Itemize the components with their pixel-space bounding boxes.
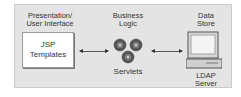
- data-heading: Data Store: [188, 12, 224, 28]
- servlets-label: Servlets: [108, 68, 148, 76]
- presentation-heading: Presentation/ User Interface: [22, 12, 78, 28]
- presentation-heading-line2: User Interface: [22, 20, 78, 28]
- gears-icon: [112, 37, 148, 67]
- business-heading-line2: Logic: [108, 20, 148, 28]
- arrow-jsp-servlets: [80, 51, 108, 52]
- ldap-label-line2: Server: [186, 80, 226, 88]
- ldap-server-label: LDAP Server: [186, 72, 226, 88]
- computer-icon: [186, 31, 222, 71]
- jsp-label-line1: JSP: [41, 40, 56, 50]
- jsp-label-line2: Templates: [30, 50, 66, 60]
- business-heading: Business Logic: [108, 12, 148, 28]
- arrow-servlets-ldap: [152, 51, 182, 52]
- data-heading-line2: Store: [188, 20, 224, 28]
- jsp-templates-box: JSP Templates: [22, 32, 74, 68]
